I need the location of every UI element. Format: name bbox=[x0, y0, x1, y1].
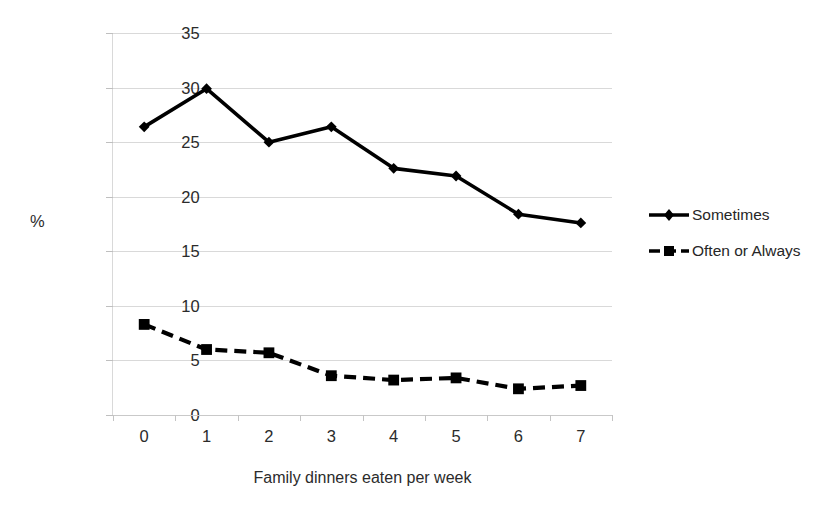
legend-label-often-or-always: Often or Always bbox=[692, 243, 801, 259]
x-tick-mark bbox=[550, 415, 551, 421]
y-tick-mark bbox=[106, 88, 113, 89]
x-tick-mark bbox=[425, 415, 426, 421]
y-tick-label: 10 bbox=[140, 298, 200, 315]
y-axis-title: % bbox=[30, 213, 45, 230]
x-tick-label: 4 bbox=[364, 428, 424, 445]
y-tick-mark bbox=[106, 251, 113, 252]
y-tick-mark bbox=[106, 33, 113, 34]
chart-legend: Sometimes Often or Always bbox=[648, 197, 822, 269]
y-tick-label: 25 bbox=[140, 134, 200, 151]
x-tick-mark bbox=[175, 415, 176, 421]
x-tick-mark bbox=[113, 415, 114, 421]
legend-item-often-or-always: Often or Always bbox=[648, 233, 822, 269]
x-axis-title: Family dinners eaten per week bbox=[0, 470, 725, 486]
y-tick-mark bbox=[106, 415, 113, 416]
x-tick-label: 7 bbox=[551, 428, 611, 445]
legend-marker-diamond-solid-icon bbox=[648, 206, 690, 224]
y-tick-mark bbox=[106, 142, 113, 143]
y-tick-label: 35 bbox=[140, 25, 200, 42]
x-tick-label: 0 bbox=[114, 428, 174, 445]
x-tick-mark bbox=[363, 415, 364, 421]
x-tick-label: 5 bbox=[426, 428, 486, 445]
y-tick-label: 5 bbox=[140, 352, 200, 369]
x-tick-label: 6 bbox=[488, 428, 548, 445]
legend-item-sometimes: Sometimes bbox=[648, 197, 822, 233]
y-tick-mark bbox=[106, 197, 113, 198]
y-tick-mark bbox=[106, 360, 113, 361]
legend-marker-square-dashed-icon bbox=[648, 242, 690, 260]
x-tick-mark bbox=[238, 415, 239, 421]
line-chart: 05101520253035 % 01234567 Family dinners… bbox=[0, 0, 822, 507]
y-tick-label: 30 bbox=[140, 79, 200, 96]
x-tick-mark bbox=[300, 415, 301, 421]
y-axis-line bbox=[112, 33, 113, 415]
y-tick-label: 20 bbox=[140, 188, 200, 205]
y-tick-label: 15 bbox=[140, 243, 200, 260]
x-tick-mark bbox=[487, 415, 488, 421]
x-tick-mark bbox=[612, 415, 613, 421]
y-tick-mark bbox=[106, 306, 113, 307]
legend-label-sometimes: Sometimes bbox=[692, 207, 770, 223]
x-tick-label: 1 bbox=[177, 428, 237, 445]
x-tick-label: 3 bbox=[301, 428, 361, 445]
x-tick-label: 2 bbox=[239, 428, 299, 445]
